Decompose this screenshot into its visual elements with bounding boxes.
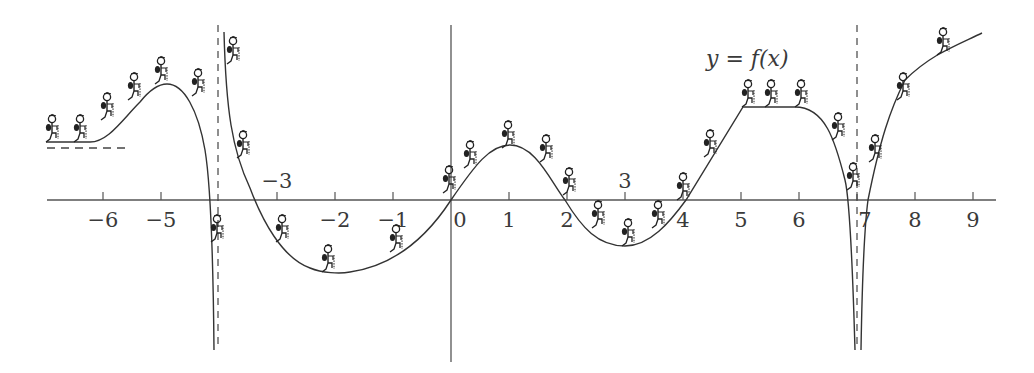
x-tick-label: −3 [262, 169, 293, 193]
x-tick-label: 6 [792, 208, 805, 232]
hiker-figure [46, 115, 58, 143]
hiker-figure [847, 163, 859, 191]
hiker-figure [276, 215, 288, 243]
x-axis-ticks [103, 192, 973, 200]
x-tick-label: 8 [908, 208, 921, 232]
hikers [46, 28, 949, 273]
hiker-figure [101, 93, 113, 121]
x-tick-label: 4 [676, 208, 689, 232]
x-tick-label: 5 [734, 208, 747, 232]
hiker-figure [652, 201, 664, 229]
x-tick-label: 1 [502, 208, 515, 232]
hiker-figure [322, 245, 334, 273]
hiker-figure [937, 28, 949, 56]
x-tick-label: −5 [146, 208, 177, 232]
hiker-figure [227, 37, 239, 65]
x-tick-label: −2 [320, 208, 351, 232]
x-tick-label: −6 [88, 208, 119, 232]
function-graph: −6−5−3−2−10123456789 y = f(x) [0, 0, 1034, 373]
hiker-figure [540, 135, 552, 163]
hiker-figure [832, 113, 844, 141]
curve-segment-right [861, 33, 982, 350]
x-tick-label: 3 [618, 169, 631, 193]
hiker-figure [155, 57, 167, 85]
hiker-figure [622, 219, 634, 247]
curve-segment-middle [224, 32, 855, 350]
hiker-figure [742, 80, 754, 108]
x-tick-label: 9 [966, 208, 979, 232]
hiker-figure [563, 168, 575, 196]
hiker-figure [592, 201, 604, 229]
hiker-figure [765, 80, 777, 108]
hiker-figure [502, 121, 514, 149]
hiker-figure [795, 80, 807, 108]
hiker-figure [237, 131, 249, 159]
hiker-figure [192, 69, 204, 97]
curve-segment-left [46, 84, 214, 350]
hiker-figure [128, 73, 140, 101]
hiker-figure [464, 141, 476, 169]
hiker-figure [443, 166, 455, 194]
x-tick-label: 0 [453, 208, 466, 232]
hiker-figure [211, 215, 223, 243]
function-label: y = f(x) [705, 46, 789, 71]
function-curve [46, 32, 982, 350]
hiker-figure [897, 73, 909, 101]
hiker-figure [74, 115, 86, 143]
hiker-figure [704, 130, 716, 158]
